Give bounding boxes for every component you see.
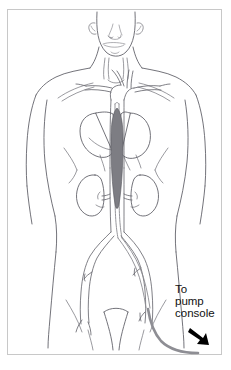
left-kidney bbox=[76, 175, 104, 216]
figure-root: To pump console bbox=[0, 0, 231, 370]
nose-icon bbox=[109, 24, 113, 38]
callout-line-3: console bbox=[175, 308, 223, 320]
arrow-down-right-icon bbox=[188, 328, 209, 345]
intra-aortic-balloon bbox=[111, 108, 123, 209]
callout-line-2: pump bbox=[175, 296, 223, 308]
right-kidney bbox=[131, 175, 159, 216]
head-and-face bbox=[89, 12, 143, 83]
callout-label: To pump console bbox=[175, 284, 223, 319]
mouth-icon bbox=[103, 43, 125, 45]
